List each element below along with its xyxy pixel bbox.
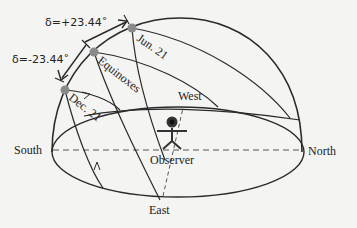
- label-dec-21: Dec. 21: [66, 90, 104, 124]
- label-west: West: [178, 89, 202, 103]
- horizon-ellipse: [52, 107, 304, 197]
- direction-arrow-icon: [94, 162, 100, 170]
- observer-icon: [157, 117, 187, 150]
- sun-dot-equinox: [90, 48, 99, 57]
- label-delta-plus: δ=+23.44˚: [45, 16, 107, 29]
- celestial-sphere-diagram: δ=+23.44˚ δ=-23.44˚ Jun. 21 Equinoxes De…: [0, 0, 357, 228]
- arc-line: [84, 109, 300, 120]
- label-observer: Observer: [150, 153, 194, 167]
- label-delta-minus: δ=-23.44˚: [12, 53, 69, 66]
- label-north: North: [308, 144, 336, 158]
- sun-dot-jun: [128, 24, 137, 33]
- label-east: East: [149, 203, 170, 217]
- sun-dot-dec: [61, 86, 70, 95]
- label-south: South: [14, 143, 42, 157]
